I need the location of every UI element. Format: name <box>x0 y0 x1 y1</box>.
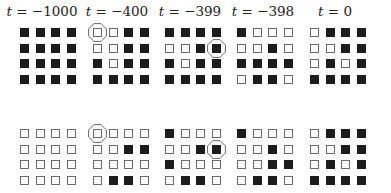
empty-site-square <box>212 129 221 138</box>
filled-site-square <box>124 75 133 84</box>
filled-site-square <box>196 176 205 185</box>
equals-sign: = <box>91 3 111 19</box>
filled-site-square <box>357 129 366 138</box>
filled-site-square <box>140 145 149 154</box>
empty-site-square <box>237 176 246 185</box>
filled-site-square <box>341 176 350 185</box>
filled-site-square <box>268 145 277 154</box>
filled-site-square <box>268 176 277 185</box>
state-grid-top-4 <box>310 28 374 92</box>
filled-site-square <box>196 28 205 37</box>
filled-site-square <box>253 75 262 84</box>
empty-site-square <box>181 44 190 53</box>
filled-site-square <box>357 28 366 37</box>
equals-sign: = <box>237 3 257 19</box>
empty-site-square <box>109 129 118 138</box>
state-grid-top-1 <box>93 28 157 92</box>
empty-site-square <box>20 176 29 185</box>
state-grid-bottom-3 <box>237 129 301 193</box>
empty-site-square <box>109 44 118 53</box>
filled-site-square <box>165 75 174 84</box>
empty-site-square <box>20 145 29 154</box>
filled-site-square <box>67 44 76 53</box>
empty-site-square <box>181 129 190 138</box>
time-label: t = −1000 <box>6 3 77 19</box>
empty-site-square <box>20 160 29 169</box>
filled-site-square <box>212 75 221 84</box>
empty-site-square <box>93 176 102 185</box>
empty-site-square <box>310 28 319 37</box>
filled-site-square <box>93 75 102 84</box>
filled-site-square <box>341 28 350 37</box>
filled-site-square <box>140 75 149 84</box>
empty-site-square <box>67 129 76 138</box>
empty-site-square <box>253 129 262 138</box>
filled-site-square <box>212 59 221 68</box>
empty-site-square <box>181 59 190 68</box>
empty-site-square <box>36 129 45 138</box>
filled-site-square <box>140 28 149 37</box>
filled-site-square <box>253 59 262 68</box>
octagon-highlight-icon <box>88 23 107 42</box>
time-label: t = −400 <box>86 3 148 19</box>
empty-site-square <box>124 129 133 138</box>
empty-site-square <box>284 176 293 185</box>
filled-site-square <box>181 28 190 37</box>
empty-site-square <box>284 28 293 37</box>
filled-site-square <box>357 44 366 53</box>
empty-site-square <box>237 75 246 84</box>
filled-site-square <box>20 59 29 68</box>
empty-site-square <box>253 28 262 37</box>
empty-site-square <box>109 145 118 154</box>
filled-site-square <box>310 75 319 84</box>
state-grid-top-3 <box>237 28 301 92</box>
filled-site-square <box>341 75 350 84</box>
octagon-highlight-icon <box>88 124 107 143</box>
state-grid-top-0 <box>20 28 84 92</box>
empty-site-square <box>212 160 221 169</box>
filled-site-square <box>341 129 350 138</box>
filled-site-square <box>124 28 133 37</box>
filled-site-square <box>326 129 335 138</box>
filled-site-square <box>326 28 335 37</box>
filled-site-square <box>124 176 133 185</box>
filled-site-square <box>284 160 293 169</box>
filled-site-square <box>124 59 133 68</box>
state-grid-top-2 <box>165 28 229 92</box>
filled-site-square <box>268 44 277 53</box>
time-value: −400 <box>111 3 148 19</box>
empty-site-square <box>310 145 319 154</box>
filled-site-square <box>51 59 60 68</box>
filled-site-square <box>51 44 60 53</box>
filled-site-square <box>67 28 76 37</box>
empty-site-square <box>109 28 118 37</box>
empty-site-square <box>140 176 149 185</box>
filled-site-square <box>36 59 45 68</box>
empty-site-square <box>51 160 60 169</box>
empty-site-square <box>268 129 277 138</box>
empty-site-square <box>36 176 45 185</box>
filled-site-square <box>181 176 190 185</box>
empty-site-square <box>212 176 221 185</box>
filled-site-square <box>109 176 118 185</box>
empty-site-square <box>165 176 174 185</box>
octagon-highlight-icon <box>207 140 226 159</box>
filled-site-square <box>253 176 262 185</box>
empty-site-square <box>67 176 76 185</box>
empty-site-square <box>20 129 29 138</box>
empty-site-square <box>196 129 205 138</box>
filled-site-square <box>20 28 29 37</box>
filled-site-square <box>357 145 366 154</box>
filled-site-square <box>109 75 118 84</box>
filled-site-square <box>268 75 277 84</box>
filled-site-square <box>268 59 277 68</box>
time-value: −398 <box>257 3 294 19</box>
filled-site-square <box>36 75 45 84</box>
filled-site-square <box>357 160 366 169</box>
filled-site-square <box>20 75 29 84</box>
filled-site-square <box>196 75 205 84</box>
equals-sign: = <box>164 3 184 19</box>
filled-site-square <box>165 129 174 138</box>
empty-site-square <box>181 145 190 154</box>
empty-site-square <box>237 44 246 53</box>
